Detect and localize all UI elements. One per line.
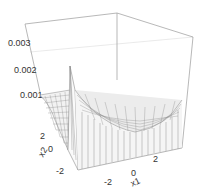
surface-plot: 0.003 0.002 0.001: [0, 0, 203, 195]
x1-tick-2: 2: [153, 154, 158, 164]
surface-left-wing: [40, 90, 70, 150]
x2-tick-neg2: -2: [56, 166, 64, 176]
x1-tick-neg2: -2: [104, 177, 112, 187]
z-tick-0.002: 0.002: [14, 65, 37, 75]
x2-tick-0: 0: [48, 144, 53, 154]
z-axis: 0.003 0.002 0.001: [8, 38, 43, 100]
x2-tick-2: 2: [40, 131, 45, 141]
x2-axis: 2 0 x2 -2: [36, 131, 64, 176]
z-tick-0.001: 0.001: [20, 90, 43, 100]
z-tick-0.003: 0.003: [8, 38, 31, 48]
